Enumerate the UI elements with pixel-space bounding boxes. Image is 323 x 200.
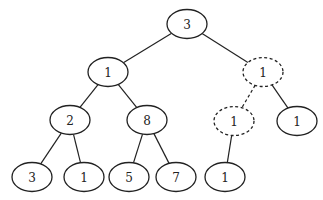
tree-edge-n2-n5 bbox=[242, 85, 255, 107]
node-label: 1 bbox=[80, 171, 88, 185]
tree-node: 1 bbox=[277, 107, 317, 136]
tree-node: 7 bbox=[156, 163, 196, 192]
tree-node: 1 bbox=[243, 58, 283, 87]
node-label: 7 bbox=[172, 171, 180, 185]
node-label: 5 bbox=[125, 171, 133, 185]
node-label: 1 bbox=[221, 171, 229, 185]
tree-node: 1 bbox=[214, 107, 254, 136]
node-label: 2 bbox=[66, 114, 74, 128]
node-label: 8 bbox=[143, 114, 151, 128]
node-label: 3 bbox=[28, 171, 36, 185]
tree-edge-n3-n8 bbox=[74, 134, 81, 162]
tree-edge-n2-n6 bbox=[272, 85, 288, 108]
tree-edge-n3-n7 bbox=[41, 133, 62, 164]
tree-edge-n1-n4 bbox=[118, 84, 137, 107]
tree-edge-n4-n9 bbox=[133, 134, 142, 163]
tree-edge-n0-n1 bbox=[123, 33, 171, 62]
tree-node: 5 bbox=[109, 163, 149, 192]
tree-edge-n0-n2 bbox=[202, 34, 248, 63]
tree-node: 3 bbox=[12, 163, 52, 192]
tree-node: 8 bbox=[127, 106, 167, 135]
tree-node: 1 bbox=[64, 163, 104, 192]
node-label: 1 bbox=[230, 115, 238, 129]
tree-diagram: 311281131571 bbox=[0, 0, 323, 200]
tree-edge-n5-n11 bbox=[227, 135, 231, 162]
node-label: 3 bbox=[183, 18, 191, 32]
tree-node: 3 bbox=[167, 10, 207, 39]
edges-layer bbox=[41, 33, 288, 164]
node-label: 1 bbox=[293, 115, 301, 129]
tree-edge-n4-n10 bbox=[154, 134, 169, 164]
node-label: 1 bbox=[104, 66, 112, 80]
tree-node: 1 bbox=[88, 58, 128, 87]
tree-node: 1 bbox=[205, 163, 245, 192]
node-label: 1 bbox=[259, 66, 267, 80]
tree-node: 2 bbox=[50, 106, 90, 135]
nodes-layer: 311281131571 bbox=[12, 10, 317, 192]
tree-edge-n1-n3 bbox=[80, 85, 98, 108]
